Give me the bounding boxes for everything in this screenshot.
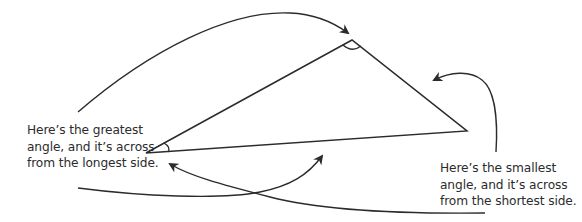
left-angle-arc: [164, 143, 169, 152]
greatest-angle-label-line-1: Here’s the greatest: [27, 122, 159, 139]
smallest-angle-label-line-3: from the shortest side.: [440, 193, 576, 210]
smallest-angle-label: Here’s the smallest angle, and it’s acro…: [440, 160, 576, 210]
triangle: [146, 40, 467, 153]
greatest-angle-label-line-3: from the longest side.: [27, 155, 159, 172]
greatest-angle-label-line-2: angle, and it’s across: [27, 139, 159, 156]
smallest-angle-label-line-1: Here’s the smallest: [440, 160, 576, 177]
arrow-to-smallest-angle: [170, 164, 485, 213]
smallest-angle-label-line-2: angle, and it’s across: [440, 177, 576, 194]
greatest-angle-label: Here’s the greatest angle, and it’s acro…: [27, 122, 159, 172]
arrow-to-greatest-angle: [78, 13, 348, 112]
